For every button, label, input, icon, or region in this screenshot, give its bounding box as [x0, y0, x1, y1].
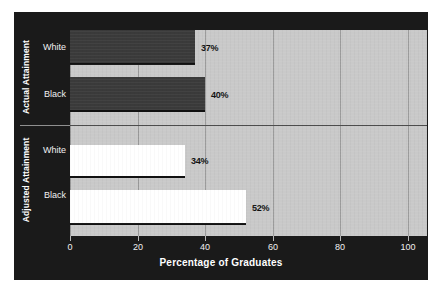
category-label-adjusted-white: White [43, 145, 66, 155]
group-band-adjusted: Adjusted Attainment White Black [14, 125, 70, 236]
chart-figure: 37% 40% 34% 52% Actual Attainment White … [14, 12, 428, 280]
group-band-actual: Actual Attainment White Black [14, 30, 70, 125]
xtick-mark-0 [70, 236, 71, 241]
xtick-mark-100 [408, 236, 409, 241]
bar-adjusted-black [70, 190, 246, 225]
category-label-actual-white: White [43, 42, 66, 52]
group-title-actual: Actual Attainment [21, 25, 31, 129]
plot-area: 37% 40% 34% 52% [70, 30, 427, 236]
bar-value-adjusted-black: 52% [252, 203, 269, 213]
xtick-mark-40 [205, 236, 206, 241]
category-label-adjusted-black: Black [44, 190, 66, 200]
xtick-mark-80 [340, 236, 341, 241]
group-title-adjusted: Adjusted Attainment [21, 128, 31, 232]
x-axis-title: Percentage of Graduates [14, 257, 428, 268]
group-divider-line [70, 125, 427, 126]
bar-actual-white [70, 30, 195, 65]
gridline-80 [340, 30, 341, 236]
bar-adjusted-white [70, 145, 185, 178]
xtick-label-0: 0 [55, 242, 85, 252]
xtick-mark-60 [273, 236, 274, 241]
xtick-label-20: 20 [123, 242, 153, 252]
xtick-label-80: 80 [325, 242, 355, 252]
xtick-mark-20 [138, 236, 139, 241]
xtick-label-60: 60 [258, 242, 288, 252]
bar-value-actual-white: 37% [201, 43, 218, 53]
xtick-label-100: 100 [393, 242, 423, 252]
gridline-60 [273, 30, 274, 236]
bar-actual-black [70, 77, 205, 112]
bar-value-actual-black: 40% [211, 90, 228, 100]
gridline-100 [408, 30, 409, 236]
category-axis: Actual Attainment White Black Adjusted A… [14, 12, 70, 236]
xtick-label-40: 40 [190, 242, 220, 252]
bar-value-adjusted-white: 34% [191, 156, 208, 166]
category-label-actual-black: Black [44, 89, 66, 99]
